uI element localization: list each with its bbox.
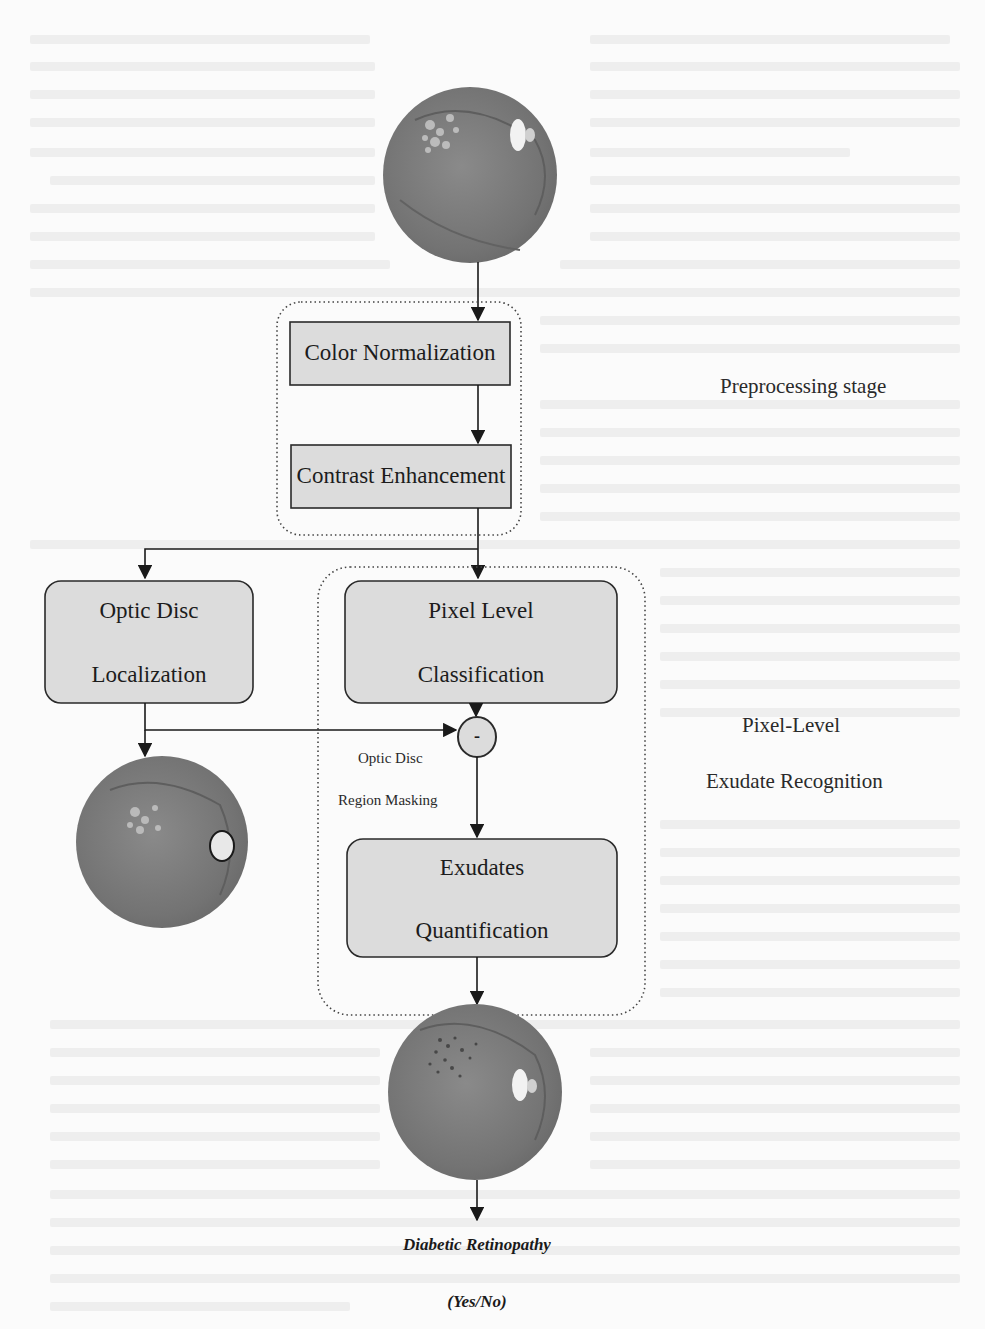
pixel-level-group-line1: Pixel-Level	[742, 713, 840, 738]
optic-disc-localization-line2: Localization	[45, 662, 253, 688]
input-fundus-image	[383, 87, 557, 263]
preprocessing-stage-label: Preprocessing stage	[720, 374, 886, 399]
exudates-quantification-line2: Quantification	[347, 918, 617, 944]
output-label-line1: Diabetic Retinopathy	[377, 1235, 577, 1255]
pixel-level-classification-line2: Classification	[345, 662, 617, 688]
optic-disc-fundus-image	[76, 756, 248, 928]
exudates-fundus-image	[388, 1004, 562, 1180]
pixel-level-classification-line1: Pixel Level	[345, 598, 617, 624]
optic-disc-localization-line1: Optic Disc	[45, 598, 253, 624]
output-label-line2: (Yes/No)	[377, 1292, 577, 1312]
pixel-level-group-line2: Exudate Recognition	[706, 769, 883, 794]
subtract-symbol: -	[467, 726, 487, 747]
contrast-enhancement-label: Contrast Enhancement	[291, 463, 511, 489]
optic-disc-region-masking-line1: Optic Disc	[358, 750, 423, 767]
exudates-quantification-line1: Exudates	[347, 855, 617, 881]
color-normalization-label: Color Normalization	[290, 340, 510, 366]
optic-disc-region-masking-line2: Region Masking	[338, 792, 438, 809]
